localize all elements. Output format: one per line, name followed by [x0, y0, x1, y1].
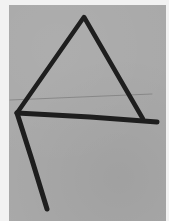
hand-drawn-glyph	[0, 0, 169, 221]
base-stroke	[17, 113, 157, 122]
descender-stroke	[17, 113, 47, 209]
triangle-stroke	[17, 17, 143, 119]
